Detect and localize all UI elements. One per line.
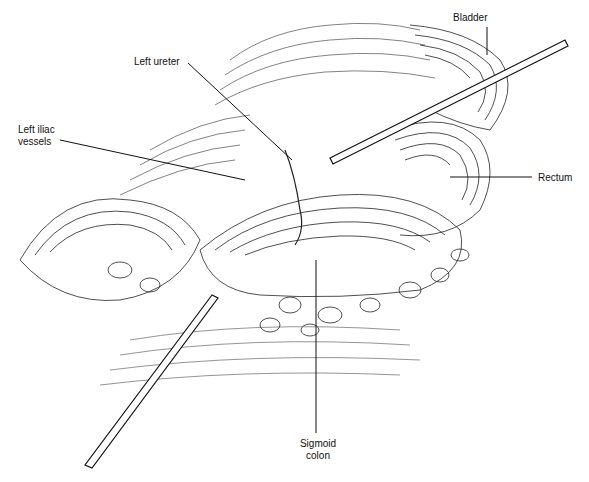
label-sigmoid-line2: colon	[296, 450, 340, 462]
sigmoid-colon-shape	[20, 194, 462, 300]
ureter-shape	[285, 150, 302, 245]
label-left-ureter: Left ureter	[134, 56, 180, 68]
illustration-canvas: Bladder Left ureter Left iliac vessels R…	[0, 0, 589, 482]
label-sigmoid-line1: Sigmoid	[296, 438, 340, 450]
label-rectum: Rectum	[538, 172, 572, 184]
label-left-iliac-line1: Left iliac	[18, 124, 55, 136]
left-iliac-leader	[60, 140, 245, 180]
label-left-iliac-line2: vessels	[18, 136, 51, 148]
label-bladder: Bladder	[453, 12, 487, 24]
lower-forceps-instrument	[85, 295, 218, 468]
leader-lines	[60, 27, 532, 433]
lower-tissue-hatching	[100, 327, 420, 385]
fat-lobules	[108, 249, 469, 336]
upper-retractor-instrument	[330, 40, 568, 164]
rectum-shape	[390, 122, 490, 236]
anatomy-drawing	[0, 0, 589, 482]
left-ureter-leader	[188, 63, 292, 160]
peritoneum-hatching	[120, 23, 435, 195]
